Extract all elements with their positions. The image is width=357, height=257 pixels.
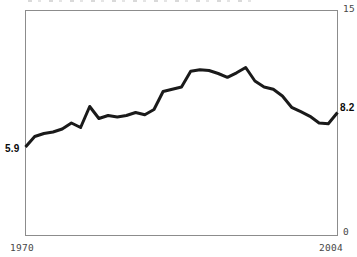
y-axis-min-label: 0 — [343, 227, 349, 237]
line-chart — [0, 0, 357, 257]
series-start-value-label: 5.9 — [5, 144, 20, 154]
series-end-value-label: 8.2 — [340, 103, 355, 113]
chart-screenshot: { "labels": { "start_value": "5.9", "end… — [0, 0, 357, 257]
data-line — [26, 68, 338, 148]
x-axis-start-label: 1970 — [10, 243, 34, 253]
y-axis-max-label: 15 — [343, 4, 355, 14]
x-axis-end-label: 2004 — [319, 243, 343, 253]
